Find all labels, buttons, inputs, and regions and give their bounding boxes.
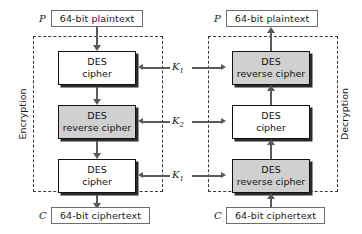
decryption-stage-1-line2: reverse cipher <box>237 68 305 80</box>
key-arrowhead-2-right <box>221 118 226 124</box>
connector-dec-2-1 <box>270 91 272 105</box>
key-label-1-sub: 1 <box>179 67 183 75</box>
key-line-1-right <box>192 67 221 69</box>
encryption-output-box: 64-bit ciphertext <box>51 207 150 224</box>
key-label-1: K1 <box>172 61 184 75</box>
key-label-3: K1 <box>172 169 184 183</box>
encryption-output-symbol: C <box>39 210 47 221</box>
decryption-output-symbol: P <box>214 13 221 24</box>
arrowhead-dec-3-2 <box>267 139 275 145</box>
key-line-3-left <box>143 175 170 177</box>
decryption-stage-3: DES reverse cipher <box>232 159 310 193</box>
key-arrowhead-3-right <box>221 172 226 178</box>
decryption-stage-1-line1: DES <box>261 56 280 68</box>
connector-dec-3-2 <box>270 145 272 159</box>
arrowhead-dec-2-1 <box>267 85 275 91</box>
decryption-stage-3-line1: DES <box>261 164 280 176</box>
arrowhead-dec-out <box>267 27 275 33</box>
encryption-side-label: Encryption <box>15 79 29 149</box>
decryption-stage-2-line2: cipher <box>256 122 286 134</box>
encryption-input-box: 64-bit plaintext <box>51 10 143 27</box>
key-arrowhead-1-right <box>221 64 226 70</box>
encryption-input-symbol: P <box>39 13 46 24</box>
encryption-stage-1-line1: DES <box>87 56 106 68</box>
decryption-input-symbol: C <box>214 210 222 221</box>
encryption-stage-3-line1: DES <box>87 164 106 176</box>
encryption-stage-2-line2: reverse cipher <box>63 122 131 134</box>
key-line-2-left <box>143 121 170 123</box>
decryption-side-label: Decryption <box>337 79 351 149</box>
key-line-1-left <box>143 67 170 69</box>
connector-dec-out <box>270 33 272 51</box>
encryption-stage-2-line1: DES <box>87 110 106 122</box>
key-line-3-right <box>192 175 221 177</box>
encryption-stage-1-line2: cipher <box>82 68 112 80</box>
key-arrowhead-1-left <box>138 64 143 70</box>
arrowhead-dec-in <box>267 193 275 199</box>
decryption-stage-2-line1: DES <box>261 110 280 122</box>
encryption-stage-3-line2: cipher <box>82 176 112 188</box>
connector-enc-in <box>96 27 98 47</box>
key-line-2-right <box>192 121 221 123</box>
decryption-stage-1: DES reverse cipher <box>232 51 310 85</box>
decryption-stage-3-line2: reverse cipher <box>237 176 305 188</box>
encryption-stage-2: DES reverse cipher <box>58 105 136 139</box>
decryption-input-box: 64-bit ciphertext <box>226 207 325 224</box>
key-arrowhead-2-left <box>138 118 143 124</box>
triple-des-diagram: Encryption Decryption P 64-bit plaintext… <box>0 0 362 234</box>
key-arrowhead-3-left <box>138 172 143 178</box>
key-label-2: K2 <box>172 115 184 129</box>
key-label-2-sub: 2 <box>179 121 183 129</box>
decryption-output-box: 64-bit plaintext <box>226 10 318 27</box>
encryption-stage-1: DES cipher <box>58 51 136 85</box>
key-label-3-sub: 1 <box>179 175 183 183</box>
encryption-stage-3: DES cipher <box>58 159 136 193</box>
decryption-stage-2: DES cipher <box>232 105 310 139</box>
